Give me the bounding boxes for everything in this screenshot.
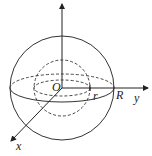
sphere-diagram — [0, 0, 152, 156]
x-axis-label: x — [16, 140, 21, 152]
origin-label: O — [52, 81, 61, 93]
outer-radius-label: R — [116, 89, 123, 101]
inner-radius-label: r — [93, 90, 98, 102]
outer-equator-front — [10, 88, 114, 102]
y-axis-label: y — [134, 92, 139, 104]
